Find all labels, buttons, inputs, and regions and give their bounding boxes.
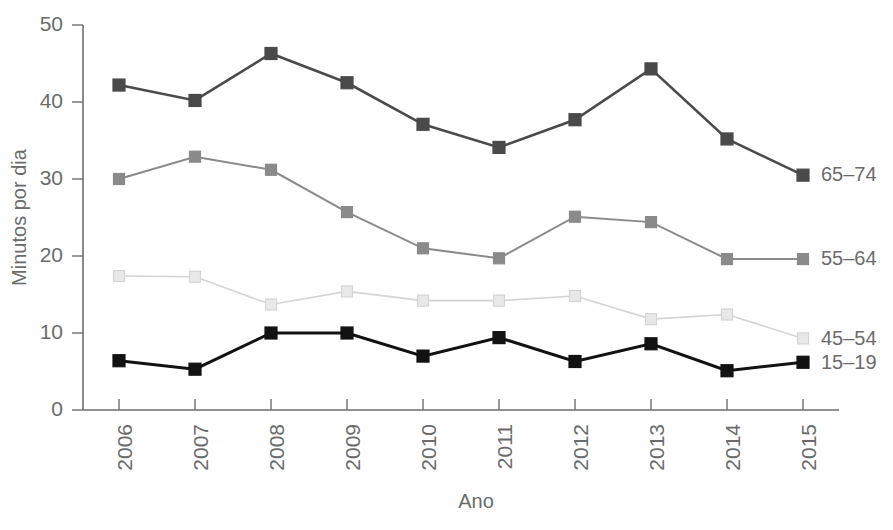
x-tick-label: 2008	[265, 424, 288, 471]
data-point-marker	[797, 169, 809, 181]
data-point-marker	[114, 174, 125, 185]
series-label-65–74: 65–74	[821, 163, 877, 185]
series-line-65–74	[119, 53, 803, 175]
x-tick-label: 2011	[493, 424, 516, 469]
series-line-45–54	[119, 276, 803, 338]
series-line-55–64	[119, 157, 803, 259]
data-point-marker	[265, 327, 277, 339]
data-point-marker	[341, 327, 353, 339]
data-point-marker	[569, 114, 581, 126]
x-tick-label: 2009	[341, 424, 364, 471]
x-axis: 2006200720082009201020112012201320142015	[83, 399, 839, 471]
x-tick-label: 2015	[797, 424, 820, 471]
data-point-marker	[114, 271, 125, 282]
series-label-15–19: 15–19	[821, 351, 877, 373]
data-point-marker	[189, 94, 201, 106]
data-point-marker	[418, 295, 429, 306]
x-tick-label: 2014	[721, 424, 744, 471]
data-point-marker	[721, 365, 733, 377]
data-point-marker	[570, 211, 581, 222]
data-point-marker	[721, 133, 733, 145]
x-tick-label: 2007	[189, 424, 212, 471]
data-point-marker	[113, 355, 125, 367]
data-point-marker	[417, 350, 429, 362]
data-point-marker	[722, 254, 733, 265]
data-point-marker	[493, 332, 505, 344]
data-point-marker	[417, 118, 429, 130]
data-point-marker	[797, 356, 809, 368]
chart-canvas: 01020304050 2006200720082009201020112012…	[0, 0, 893, 530]
series-labels: 65–7455–6445–5415–19	[821, 163, 877, 372]
data-point-marker	[190, 151, 201, 162]
x-tick-label: 2010	[417, 424, 440, 471]
data-point-marker	[798, 333, 809, 344]
data-point-marker	[341, 77, 353, 89]
data-point-marker	[342, 207, 353, 218]
data-point-marker	[265, 47, 277, 59]
data-point-marker	[798, 254, 809, 265]
line-chart: 01020304050 2006200720082009201020112012…	[0, 0, 893, 530]
data-point-marker	[342, 286, 353, 297]
y-tick-label: 20	[40, 243, 63, 266]
data-point-marker	[189, 363, 201, 375]
data-point-marker	[266, 299, 277, 310]
y-tick-label: 50	[40, 12, 63, 35]
data-point-marker	[570, 291, 581, 302]
y-tick-label: 40	[40, 89, 63, 112]
y-tick-label: 30	[40, 166, 63, 189]
data-point-marker	[494, 295, 505, 306]
y-tick-label: 0	[51, 397, 63, 420]
x-tick-label: 2012	[569, 424, 592, 471]
series-label-45–54: 45–54	[821, 327, 877, 349]
data-point-marker	[722, 309, 733, 320]
data-point-marker	[113, 79, 125, 91]
series-layer	[113, 47, 809, 376]
data-point-marker	[418, 243, 429, 254]
data-point-marker	[645, 338, 657, 350]
y-tick-label: 10	[40, 320, 63, 343]
series-line-15–19	[119, 333, 803, 371]
series-label-55–64: 55–64	[821, 247, 877, 269]
data-point-marker	[494, 253, 505, 264]
data-point-marker	[646, 314, 657, 325]
x-tick-label: 2006	[113, 424, 136, 471]
data-point-marker	[493, 141, 505, 153]
data-point-marker	[190, 271, 201, 282]
data-point-marker	[646, 217, 657, 228]
x-tick-label: 2013	[645, 424, 668, 471]
data-point-marker	[645, 63, 657, 75]
x-axis-title: Ano	[458, 490, 494, 512]
y-axis-title: Minutos por dia	[8, 148, 30, 286]
data-point-marker	[569, 355, 581, 367]
data-point-marker	[266, 164, 277, 175]
y-axis: 01020304050	[40, 12, 83, 420]
